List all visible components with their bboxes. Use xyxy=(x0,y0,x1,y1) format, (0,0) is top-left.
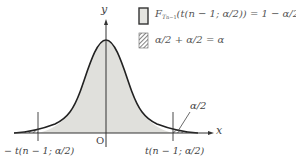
x-axis-arrow-icon xyxy=(208,131,214,135)
tail-annotation-label: α/2 xyxy=(190,100,206,111)
legend-cdf-expression: (t(n − 1; α/2)) = 1 − α/2 xyxy=(177,8,296,19)
legend-swatch-hatched xyxy=(139,33,148,48)
legend-alpha-expression: α/2 + α/2 = α xyxy=(155,34,224,45)
legend-swatch-solid xyxy=(139,8,148,24)
x-axis-label: x xyxy=(216,124,222,137)
legend-item-cdf: FTn−1(t(n − 1; α/2)) = 1 − α/2 xyxy=(155,8,296,20)
t-distribution-figure xyxy=(0,0,296,159)
legend-item-alpha: α/2 + α/2 = α xyxy=(155,34,224,45)
left-critical-label: − t(n − 1; α/2) xyxy=(4,145,74,156)
annotation-leader xyxy=(178,112,190,131)
legend-cdf-subsub: n−1 xyxy=(166,14,177,20)
origin-label: O xyxy=(96,135,104,146)
right-critical-label: t(n − 1; α/2) xyxy=(145,145,204,156)
legend-cdf-F: F xyxy=(155,8,162,19)
y-axis-label: y xyxy=(101,3,107,16)
y-axis-arrow-icon xyxy=(104,19,108,25)
